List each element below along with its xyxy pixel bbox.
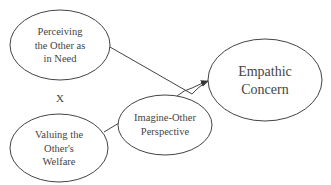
label-line: Valuing the <box>35 128 83 142</box>
edge-valuing-to-imagine <box>104 123 119 132</box>
label-empathic-concern: Empathic Concern <box>238 63 292 98</box>
label-line: Empathic <box>238 63 292 81</box>
label-line: in Need <box>35 52 86 66</box>
label-line: Imagine-Other <box>134 111 196 125</box>
label-line: Perceiving <box>35 25 86 39</box>
label-valuing-others-welfare: Valuing the Other's Welfare <box>35 128 83 169</box>
label-line: the Other as <box>35 38 86 52</box>
label-perceiving-other-in-need: Perceiving the Other as in Need <box>35 25 86 66</box>
label-line: Perspective <box>134 125 196 139</box>
label-line: Concern <box>238 80 292 98</box>
edge-junction-to-empathic <box>192 81 208 94</box>
interaction-operator: X <box>56 92 64 104</box>
label-line: Welfare <box>35 155 83 169</box>
edge-perceiving-to-empathic <box>110 47 192 94</box>
label-imagine-other-perspective: Imagine-Other Perspective <box>134 111 196 138</box>
label-line: Other's <box>35 141 83 155</box>
